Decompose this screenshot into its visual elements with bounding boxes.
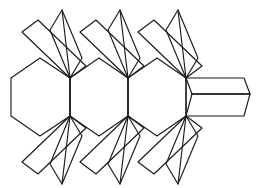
geometric-figure-canvas: Geometric tessellation line drawing Blac…	[0, 0, 258, 188]
